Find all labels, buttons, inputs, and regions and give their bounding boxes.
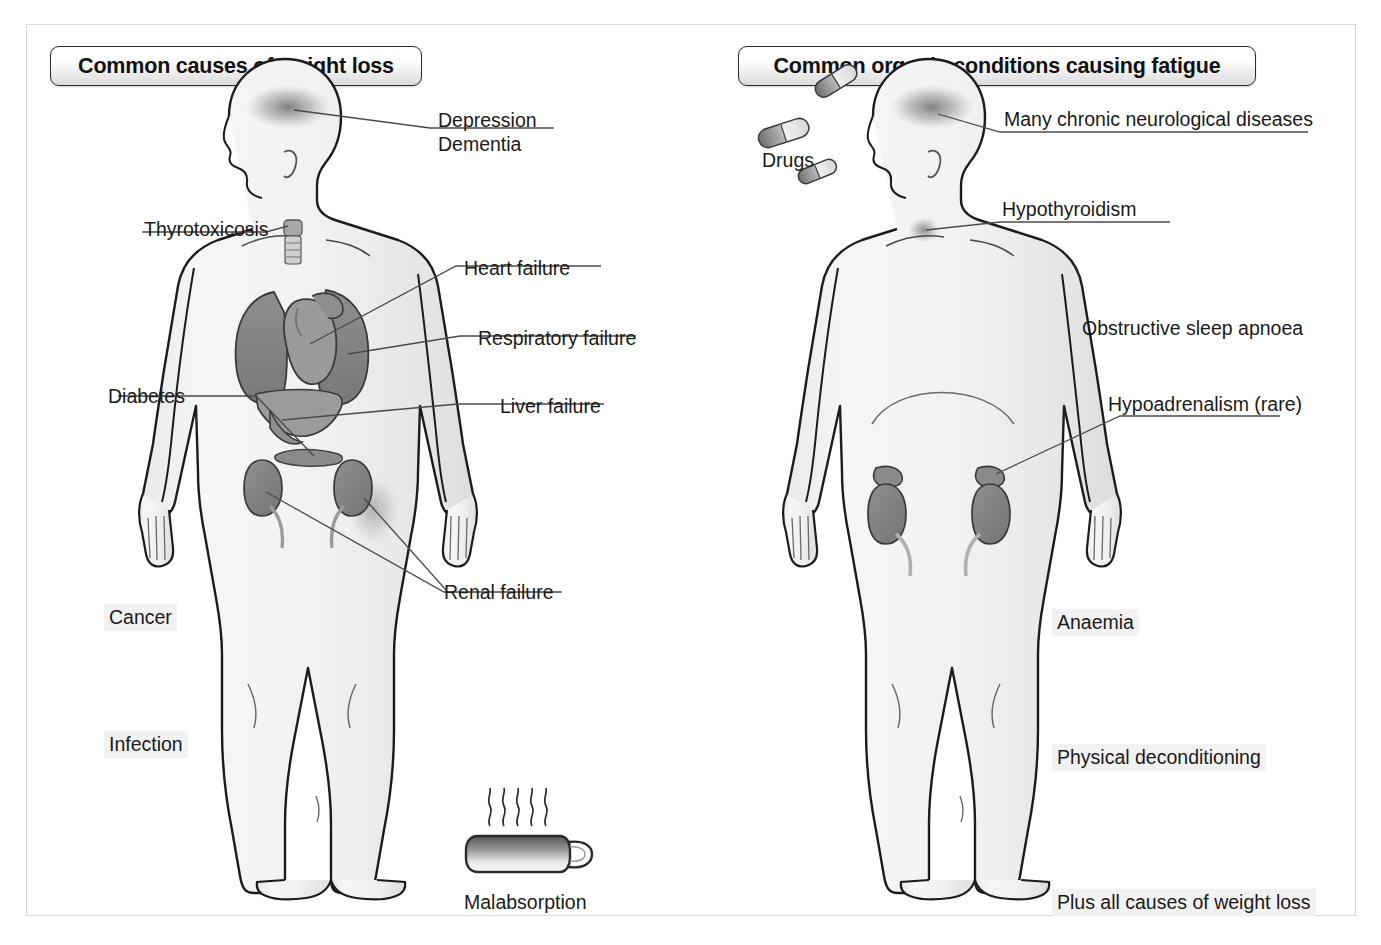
lungs-icon: [236, 290, 369, 405]
body-outline: [139, 59, 477, 899]
panel-weight-loss: Common causes of weight loss: [26, 24, 716, 916]
diagram-page: Common causes of weight loss: [0, 0, 1381, 945]
label-sleep-apnoea: Obstructive sleep apnoea: [1082, 316, 1303, 341]
label-heart-failure: Heart failure: [464, 256, 570, 281]
label-dementia: Dementia: [438, 132, 521, 157]
panel-title-fatigue: Common organic conditions causing fatigu…: [738, 46, 1256, 86]
label-respiratory-failure: Respiratory failure: [478, 326, 636, 351]
label-drugs: Drugs: [762, 148, 814, 173]
label-renal-failure: Renal failure: [444, 580, 553, 605]
label-cancer: Cancer: [104, 604, 177, 631]
panel-title-weight-loss: Common causes of weight loss: [50, 46, 422, 86]
label-diabetes: Diabetes: [108, 384, 185, 409]
leader-lines-weight-loss: [26, 24, 716, 916]
label-depression: Depression: [438, 108, 537, 133]
kidneys-adrenals-icon: [868, 466, 1010, 576]
label-anaemia: Anaemia: [1052, 609, 1139, 636]
kidneys-icon: [244, 460, 372, 548]
label-neurological: Many chronic neurological diseases: [1004, 107, 1313, 132]
steaming-mug-icon: [456, 784, 606, 884]
liver-icon: [256, 390, 342, 445]
body-outline: [783, 59, 1121, 899]
malabsorption-group: Malabsorption: [456, 784, 606, 888]
label-hypoadrenalism: Hypoadrenalism (rare): [1108, 392, 1302, 417]
label-plus-weight-loss: Plus all causes of weight loss: [1052, 889, 1316, 916]
label-infection: Infection: [104, 731, 188, 758]
heart-icon: [284, 293, 343, 384]
label-malabsorption: Malabsorption: [464, 890, 586, 915]
label-liver-failure: Liver failure: [500, 394, 601, 419]
label-hypothyroidism: Hypothyroidism: [1002, 197, 1136, 222]
panel-fatigue: Common organic conditions causing fatigu…: [700, 24, 1356, 916]
organs-weight-loss: [236, 220, 372, 548]
label-thyrotoxicosis: Thyrotoxicosis: [144, 217, 269, 242]
label-physical-deconditioning: Physical deconditioning: [1052, 744, 1266, 771]
pancreas-icon: [275, 450, 342, 467]
thyroid-icon: [284, 220, 302, 264]
thyroid-shade: [908, 217, 940, 243]
body-figure-weight-loss: [26, 24, 716, 916]
